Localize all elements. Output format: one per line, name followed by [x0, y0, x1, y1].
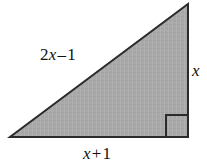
base-operator: +: [91, 144, 103, 163]
side-label-hypotenuse: 2x–1: [40, 46, 76, 63]
triangle-shape: [10, 4, 188, 137]
side-label-base: x+1: [83, 145, 111, 162]
hypotenuse-coefficient: 2: [40, 45, 49, 64]
side-label-vertical-leg: x: [192, 62, 200, 79]
base-variable: x: [83, 144, 91, 163]
vertical-leg-variable: x: [192, 61, 200, 80]
right-triangle-figure: [0, 0, 207, 167]
hypotenuse-operator: –: [56, 45, 67, 64]
base-constant: 1: [103, 144, 112, 163]
hypotenuse-constant: 1: [67, 45, 76, 64]
